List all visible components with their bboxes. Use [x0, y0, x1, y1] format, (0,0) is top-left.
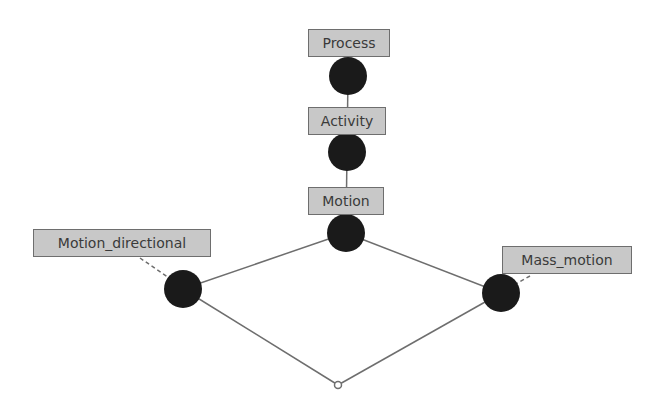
label-activity[interactable]: Activity	[308, 107, 386, 135]
node-motion-directional[interactable]	[164, 270, 202, 308]
node-mass-motion[interactable]	[482, 274, 520, 312]
node-activity[interactable]	[328, 133, 366, 171]
label-mass-motion[interactable]: Mass_motion	[502, 246, 632, 274]
label-process[interactable]: Process	[308, 29, 390, 57]
node-process[interactable]	[329, 57, 367, 95]
label-motion-directional[interactable]: Motion_directional	[33, 229, 211, 257]
node-bottom[interactable]	[335, 382, 342, 389]
leader-motion-directional	[140, 258, 172, 280]
edge-mass-motion-bottom	[338, 293, 501, 385]
node-motion[interactable]	[327, 214, 365, 252]
edge-motion-directional-bottom	[183, 289, 338, 385]
label-motion[interactable]: Motion	[308, 187, 384, 215]
edge-motion-mass-motion	[346, 233, 501, 293]
